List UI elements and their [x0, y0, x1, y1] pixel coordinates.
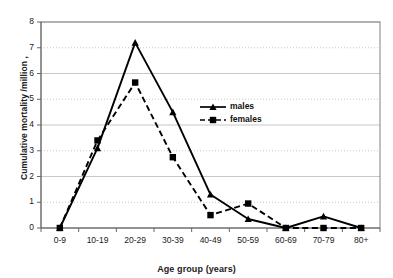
y-axis	[37, 22, 41, 228]
series-line	[60, 43, 361, 228]
legend	[200, 103, 226, 123]
data-point-marker	[94, 137, 100, 143]
y-tick-label: 7	[10, 42, 34, 52]
data-point-marker	[169, 109, 176, 116]
chart-container: Cumulative mortality /million , Age grou…	[0, 0, 393, 278]
y-tick-label: 2	[10, 171, 34, 181]
data-point-marker	[358, 225, 364, 231]
series-females	[57, 79, 365, 231]
data-point-marker	[245, 200, 251, 206]
data-point-marker	[132, 39, 139, 46]
data-point-marker	[283, 225, 289, 231]
y-tick-label: 8	[10, 16, 34, 26]
legend-label-females: females	[230, 114, 262, 124]
y-tick-label: 1	[10, 196, 34, 206]
y-tick-label: 5	[10, 93, 34, 103]
data-point-marker	[320, 225, 326, 231]
data-point-marker	[170, 154, 176, 160]
x-tick-label: 80+	[336, 235, 386, 245]
data-point-marker	[207, 212, 213, 218]
data-point-marker	[210, 117, 216, 123]
y-tick-label: 3	[10, 145, 34, 155]
data-point-marker	[320, 213, 327, 220]
y-tick-label: 6	[10, 68, 34, 78]
legend-label-males: males	[230, 101, 254, 111]
series-line	[60, 83, 361, 228]
gridlines	[41, 22, 380, 202]
y-tick-label: 0	[10, 222, 34, 232]
data-point-marker	[132, 79, 138, 85]
data-point-marker	[207, 191, 214, 198]
x-axis	[41, 228, 380, 232]
series-males	[56, 39, 365, 231]
x-axis-title: Age group (years)	[0, 264, 393, 274]
y-tick-label: 4	[10, 119, 34, 129]
data-point-marker	[57, 225, 63, 231]
